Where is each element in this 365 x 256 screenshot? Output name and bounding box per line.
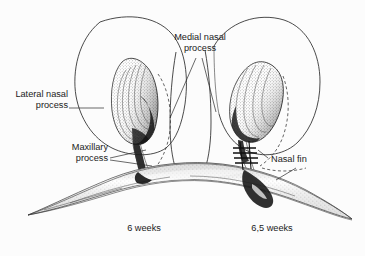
anatomical-figure: Lateral nasal process Medial nasal proce… bbox=[0, 0, 365, 256]
nasal-development-diagram: Lateral nasal process Medial nasal proce… bbox=[0, 0, 365, 256]
label-lateral-nasal-process-line1: Lateral nasal bbox=[15, 89, 68, 99]
caption-left-stage: 6 weeks bbox=[127, 223, 161, 233]
label-maxillary-process-line1: Maxillary bbox=[72, 142, 109, 152]
label-medial-nasal-process-line2: process bbox=[184, 43, 217, 53]
caption-right-stage: 6,5 weeks bbox=[251, 223, 293, 233]
label-nasal-fin: Nasal fin bbox=[271, 154, 307, 164]
label-maxillary-process-line2: process bbox=[76, 153, 109, 163]
label-lateral-nasal-process-line2: process bbox=[36, 100, 69, 110]
label-medial-nasal-process-line1: Medial nasal bbox=[174, 32, 226, 42]
